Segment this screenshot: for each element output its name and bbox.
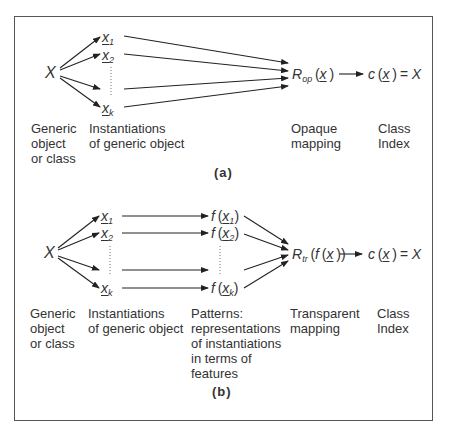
instance-x2-b: x2 <box>101 225 113 246</box>
instance-xk-b: xk <box>101 280 113 301</box>
label-transparent-mapping: Transparent mapping <box>290 306 360 336</box>
arrow-b-fx2-to-rtr <box>244 234 288 250</box>
arrow-b-x-to-x1 <box>58 216 99 248</box>
arrow-a-x2-to-rop <box>124 54 288 71</box>
source-x-a: X <box>45 65 56 81</box>
arrow-b-x-to-x2 <box>58 233 99 250</box>
instance-x2-a: x2 <box>102 47 114 68</box>
pattern-fxk: f (xk) <box>211 280 239 301</box>
arrow-a-dots-to-rop <box>124 78 288 89</box>
label-class-index-b: Class Index <box>377 306 410 336</box>
class-index-expr-a: c (x ) = X <box>368 66 421 82</box>
label-patterns: Patterns: representations of instantiati… <box>191 306 281 381</box>
arrow-b-dots-to-rtr <box>244 255 288 270</box>
instance-xk-a: xk <box>102 100 114 121</box>
arrow-a-x-to-x1 <box>60 37 100 68</box>
label-class-index-a: Class Index <box>378 121 411 151</box>
label-opaque-mapping: Opaque mapping <box>291 121 341 151</box>
arrow-b-fxk-to-rtr <box>244 261 288 288</box>
class-index-expr-b: c (x ) = X <box>368 246 421 262</box>
source-x-b: X <box>44 245 55 261</box>
arrow-a-x-to-x2 <box>60 54 100 70</box>
label-instantiations-b: Instantiations of generic object <box>88 306 183 336</box>
caption-b: (b) <box>212 384 232 399</box>
arrow-a-xk-to-rop <box>124 86 288 107</box>
pattern-fx2: f (x2) <box>211 225 239 246</box>
label-instantiations-a: Instantiations of generic object <box>89 121 184 151</box>
arrow-b-fx1-to-rtr <box>244 216 288 244</box>
transparent-mapping-expr: Rtr (f (x )) <box>292 246 346 267</box>
arrow-a-x1-to-rop <box>124 36 288 63</box>
label-generic-object-a: Generic object or class <box>31 121 77 166</box>
caption-a: (a) <box>214 165 233 180</box>
label-generic-object-b: Generic object or class <box>30 306 76 351</box>
opaque-mapping-expr: Rop (x ) <box>292 66 334 87</box>
